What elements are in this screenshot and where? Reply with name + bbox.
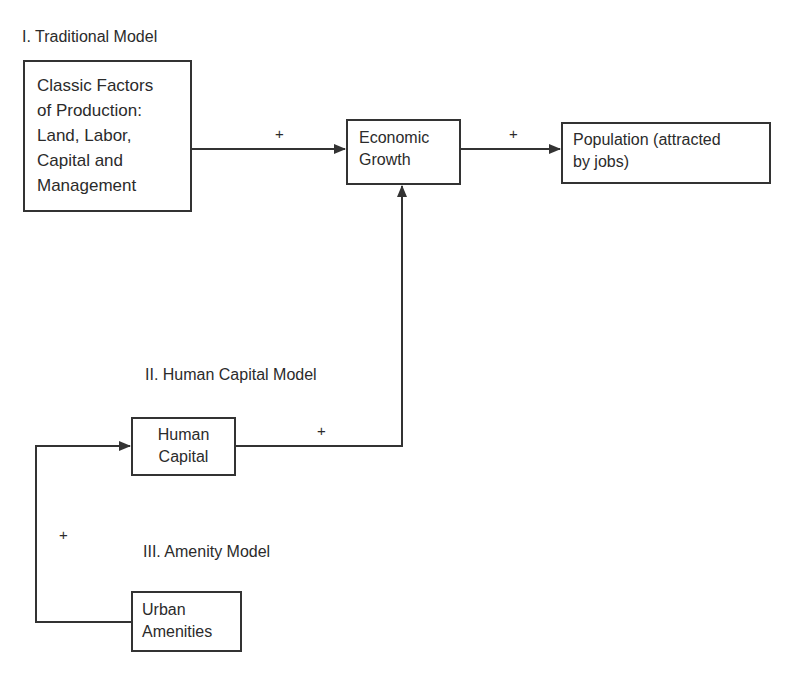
diagram-canvas: I. Traditional Model II. Human Capital M… xyxy=(0,0,795,677)
node-population-label: Population (attracted by jobs) xyxy=(573,129,769,173)
section-label-traditional: I. Traditional Model xyxy=(22,28,157,46)
sign-amenities-to-human-capital: + xyxy=(59,527,68,542)
sign-classic-to-growth: + xyxy=(275,126,284,141)
node-urban-amenities-label: Urban Amenities xyxy=(142,599,240,643)
sign-human-capital-to-growth: + xyxy=(317,423,326,438)
section-label-human-capital: II. Human Capital Model xyxy=(145,366,317,384)
section-label-amenity: III. Amenity Model xyxy=(143,543,270,561)
node-classic-factors: Classic Factors of Production: Land, Lab… xyxy=(23,60,192,212)
node-human-capital-label: Human Capital xyxy=(133,424,234,468)
sign-growth-to-population: + xyxy=(509,126,518,141)
node-population: Population (attracted by jobs) xyxy=(561,122,771,184)
node-human-capital: Human Capital xyxy=(131,417,236,476)
node-classic-factors-label: Classic Factors of Production: Land, Lab… xyxy=(37,73,190,198)
node-economic-growth: Economic Growth xyxy=(346,119,461,185)
edge-human-capital-to-growth xyxy=(236,186,402,446)
edge-amenities-to-human-capital xyxy=(36,446,131,622)
node-urban-amenities: Urban Amenities xyxy=(131,591,242,652)
node-economic-growth-label: Economic Growth xyxy=(359,127,459,171)
